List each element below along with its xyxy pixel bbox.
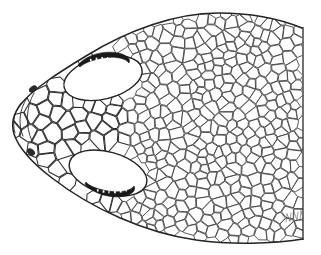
eye-highlight-tick	[113, 58, 114, 60]
eye-highlight-tick	[97, 189, 99, 191]
eye-highlight-tick	[119, 59, 120, 61]
eye-highlight-tick	[90, 59, 92, 61]
eye-highlight-tick	[114, 191, 116, 193]
eye-highlight-tick	[120, 190, 122, 192]
eye-highlight-tick	[126, 189, 127, 191]
eye-highlight-tick	[103, 190, 105, 192]
reptile-head-drawing	[0, 0, 321, 255]
body-scale	[213, 58, 224, 65]
eye-highlight-tick	[108, 191, 109, 193]
figure-root: Dorsal view of reptile head scalation do…	[0, 0, 321, 255]
eye-highlight-tick	[101, 57, 103, 59]
eye-highlight-tick	[107, 57, 108, 59]
body-scale	[147, 155, 156, 162]
eye-highlight-tick	[96, 58, 98, 60]
body-scale	[180, 85, 190, 93]
